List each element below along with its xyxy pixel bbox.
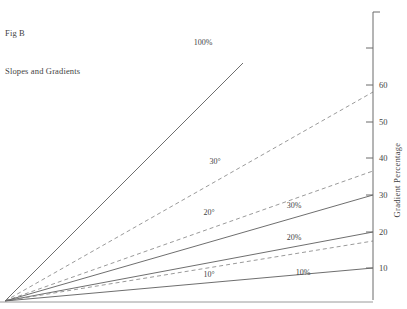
ray-100-percent xyxy=(5,63,243,301)
label-100-percent: 100% xyxy=(194,38,213,47)
ray-10-percent xyxy=(5,268,373,301)
axis-title-gradient-percentage: Gradient Percentage xyxy=(392,143,402,218)
ray-20-degrees xyxy=(5,171,373,301)
label-10-degrees: 10° xyxy=(203,270,214,279)
label-20-degrees: 20° xyxy=(203,208,214,217)
ray-20-percent xyxy=(5,232,373,301)
axis-tick-label-30: 30 xyxy=(379,190,388,200)
axis-tick-label-40: 40 xyxy=(379,153,388,163)
label-30-percent: 30% xyxy=(287,201,302,210)
axis-tick-label-20: 20 xyxy=(379,227,388,237)
axis-tick-label-10: 10 xyxy=(379,263,388,273)
axis-tick-label-50: 50 xyxy=(379,117,388,127)
label-10-percent: 10% xyxy=(296,268,311,277)
axis-tick-label-60: 60 xyxy=(379,80,388,90)
figure-container: Fig B Slopes and Gradients 60 50 40 30 2… xyxy=(0,0,407,309)
slopes-gradients-plot: 60 50 40 30 20 10 Gradient Percentage 10… xyxy=(0,0,407,309)
ray-10-degrees xyxy=(5,241,373,301)
label-30-degrees: 30° xyxy=(209,157,220,166)
ray-30-degrees xyxy=(5,92,373,301)
ray-30-percent xyxy=(5,195,373,301)
label-20-percent: 20% xyxy=(287,233,302,242)
